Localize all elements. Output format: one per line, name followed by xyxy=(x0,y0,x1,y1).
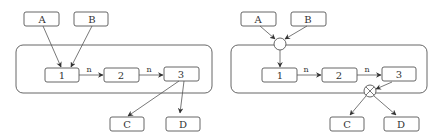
right-node-a: A xyxy=(241,12,276,26)
svg-text:B: B xyxy=(88,14,95,25)
left-edge-label-2-3: n xyxy=(146,65,151,74)
svg-text:1: 1 xyxy=(277,70,283,81)
left-node-c: C xyxy=(110,117,144,131)
svg-text:3: 3 xyxy=(396,69,402,80)
svg-text:2: 2 xyxy=(336,70,342,81)
svg-text:3: 3 xyxy=(178,69,184,80)
left-node-d: D xyxy=(166,117,200,131)
svg-text:D: D xyxy=(179,119,187,130)
left-edge-a-1 xyxy=(43,26,61,67)
right-diagram: A B 1 2 3 C D xyxy=(231,12,427,131)
svg-text:B: B xyxy=(304,14,311,25)
svg-text:A: A xyxy=(253,14,262,25)
svg-text:1: 1 xyxy=(59,70,65,81)
left-edge-label-1-2: n xyxy=(86,65,91,74)
right-edge-a-join xyxy=(260,26,275,39)
right-node-2: 2 xyxy=(322,68,357,82)
merge-junction-icon xyxy=(274,38,286,50)
svg-text:C: C xyxy=(343,119,351,130)
svg-text:C: C xyxy=(123,119,131,130)
svg-text:2: 2 xyxy=(118,70,124,81)
right-edge-label-2-3: n xyxy=(364,65,369,74)
left-node-2: 2 xyxy=(104,68,139,82)
right-node-d: D xyxy=(384,117,419,131)
left-edge-3-c xyxy=(128,81,179,116)
svg-text:A: A xyxy=(37,14,46,25)
right-node-1: 1 xyxy=(262,68,297,82)
left-node-a: A xyxy=(24,12,59,26)
right-edge-split-d xyxy=(374,96,396,115)
diagram-canvas: A B 1 2 3 C D n n xyxy=(0,0,446,140)
right-node-c: C xyxy=(330,117,364,131)
left-diagram: A B 1 2 3 C D n n xyxy=(16,12,212,131)
right-edge-split-c xyxy=(350,96,366,115)
left-edge-b-1 xyxy=(71,26,92,67)
svg-text:D: D xyxy=(397,119,405,130)
left-node-1: 1 xyxy=(45,68,79,82)
right-node-b: B xyxy=(291,12,326,26)
right-edge-b-join xyxy=(285,26,307,39)
xor-junction-icon xyxy=(364,85,376,97)
right-node-3: 3 xyxy=(382,67,416,81)
left-node-b: B xyxy=(74,12,108,26)
right-edge-3-split xyxy=(376,82,392,89)
left-edge-3-d xyxy=(180,81,184,113)
left-node-3: 3 xyxy=(164,67,199,81)
right-edge-label-1-2: n xyxy=(303,65,308,74)
